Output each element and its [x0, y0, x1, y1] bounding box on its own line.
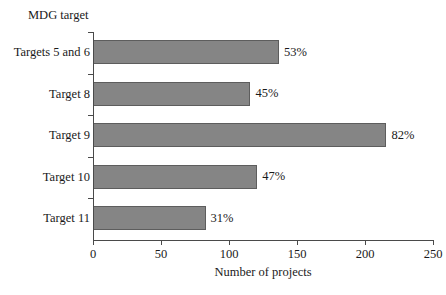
bar	[94, 40, 279, 64]
bar-row: 47%	[94, 157, 434, 199]
category-label: Target 8	[49, 88, 90, 101]
x-axis-tick	[229, 240, 230, 245]
y-axis-tick	[88, 198, 93, 199]
bar-value-label: 82%	[391, 129, 414, 142]
x-axis-tick-label: 200	[356, 247, 375, 261]
plot-area: 53%45%82%47%31% 050100150200250	[93, 32, 433, 240]
category-label: Targets 5 and 6	[14, 46, 90, 59]
x-axis-line	[93, 240, 434, 241]
x-axis-tick	[161, 240, 162, 245]
bar-row: 82%	[94, 115, 434, 157]
bar-value-label: 45%	[255, 87, 278, 100]
y-axis-tick	[88, 74, 93, 75]
bar-value-label: 53%	[284, 46, 307, 59]
x-axis-tick	[365, 240, 366, 245]
x-axis-tick-label: 100	[220, 247, 239, 261]
bar-row: 53%	[94, 32, 434, 74]
bar-group: 31%	[94, 206, 233, 230]
bar	[94, 165, 257, 189]
y-axis-tick	[88, 115, 93, 116]
x-axis-tick	[433, 240, 434, 245]
x-axis-tick	[297, 240, 298, 245]
category-label: Target 11	[43, 212, 90, 225]
y-axis-tick	[88, 32, 93, 33]
bar-group: 45%	[94, 82, 278, 106]
bar-value-label: 31%	[211, 212, 234, 225]
x-axis-tick-label: 150	[288, 247, 307, 261]
bar-group: 82%	[94, 123, 414, 147]
x-axis-tick-label: 250	[424, 247, 443, 261]
x-axis-tick-label: 50	[155, 247, 168, 261]
x-axis-title: Number of projects	[93, 265, 433, 279]
bar-group: 53%	[94, 40, 307, 64]
category-label: Target 10	[43, 171, 90, 184]
bar-chart-figure: MDG target 53%45%82%47%31% 0501001502002…	[0, 0, 446, 295]
bar-group: 47%	[94, 165, 285, 189]
bar	[94, 206, 206, 230]
y-axis-tick	[88, 157, 93, 158]
bar-row: 45%	[94, 74, 434, 116]
bar	[94, 82, 250, 106]
x-axis-tick-label: 0	[90, 247, 96, 261]
y-axis-title: MDG target	[28, 8, 89, 22]
bar	[94, 123, 386, 147]
x-axis-tick	[93, 240, 94, 245]
category-label: Target 9	[49, 129, 90, 142]
bar-value-label: 47%	[262, 170, 285, 183]
bar-row: 31%	[94, 198, 434, 240]
